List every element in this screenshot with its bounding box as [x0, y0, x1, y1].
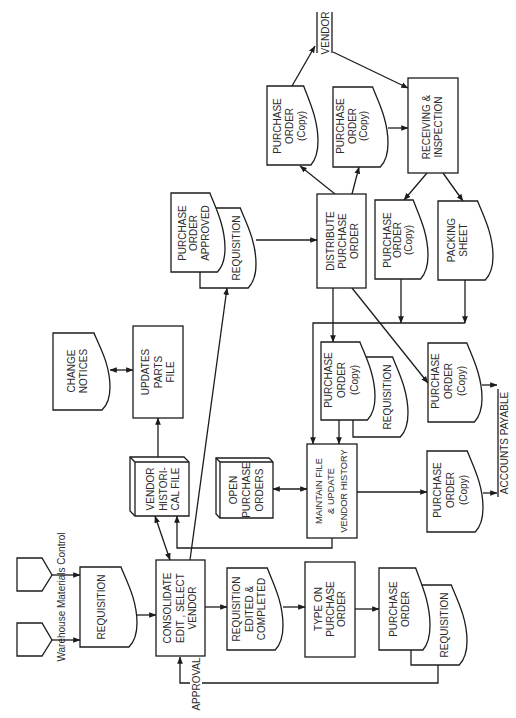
accounts-payable-label: ACCOUNTS PAYABLE	[499, 392, 510, 495]
node-label: RECEIVING &	[421, 94, 432, 159]
node-label: PURCHASE	[272, 98, 283, 154]
node-maintain-file: MAINTAIN FILE & UPDATE VENDOR HISTORY	[307, 444, 357, 538]
node-label: TYPE ON	[313, 587, 324, 631]
node-label: PACKING	[446, 218, 457, 262]
node-consolidate: CONSOLIDATE EDIT , SELECT VENDOR	[156, 560, 205, 656]
node-label: MAINTAIN FILE	[314, 458, 324, 524]
node-purchase-order-with-requisition: REQUISITION PURCHASE ORDER	[379, 568, 467, 665]
node-label: ORDER	[336, 591, 347, 627]
node-label: PURCHASE	[432, 462, 443, 518]
node-label: INSPECTION	[433, 96, 444, 157]
node-requisition: REQUISITION	[80, 567, 137, 647]
node-label: COMPLETED	[256, 578, 267, 640]
node-label: (Copy)	[403, 225, 414, 255]
node-label: PURCHASE	[388, 581, 399, 637]
node-label: CAL FILE	[170, 467, 181, 510]
node-label: UPDATES	[140, 348, 151, 395]
node-label: & UPDATE	[326, 468, 336, 514]
node-label: APPROVED	[200, 205, 211, 261]
edge-distribute-to-po-copy-vendor	[300, 166, 335, 194]
node-po-copy-with-requisition: REQUISITION PURCHASE ORDER (Copy)	[321, 342, 408, 437]
node-label: ORDER	[400, 591, 411, 627]
node-packing-sheet: PACKING SHEET	[438, 201, 493, 280]
node-label: ORDER	[188, 215, 199, 251]
node-label: HISTORI-	[158, 467, 169, 511]
node-type-purchase-order: TYPE ON PURCHASE ORDER	[305, 562, 355, 657]
node-label: FILE	[165, 361, 176, 382]
document-shape	[80, 567, 137, 647]
node-label: (Copy)	[458, 475, 469, 505]
node-label: ORDER	[445, 472, 456, 508]
node-requisition-edited: REQUISITION EDITED & COMPLETED	[227, 568, 283, 650]
offpage-connector-icon	[17, 623, 52, 656]
node-label: CHANGE	[66, 349, 77, 392]
node-po-copy-to-ap-lower: PURCHASE ORDER (Copy)	[427, 451, 483, 532]
node-label: ORDERS	[254, 468, 265, 511]
node-label: PURCHASE	[325, 581, 336, 637]
node-vendor-historical-file: VENDOR HISTORI- CAL FILE	[130, 457, 189, 516]
node-po-copy-to-ap-upper: PURCHASE ORDER (Copy)	[428, 343, 482, 422]
edge-po-copy-to-vendor	[292, 46, 315, 86]
vendor-label: VENDOR	[320, 12, 331, 55]
edge-approval-loop-a	[202, 665, 438, 683]
node-change-notices: CHANGE NOTICES	[53, 333, 110, 410]
edge-approval-loop-b	[180, 657, 190, 683]
node-label: EDIT , SELECT	[175, 573, 186, 643]
node-label: EDITED &	[244, 586, 255, 632]
node-label: REQUISITION	[96, 574, 107, 639]
approval-label: APPROVAL	[191, 657, 202, 711]
external-accounts-payable: ACCOUNTS PAYABLE	[498, 389, 510, 497]
external-vendor: VENDOR	[317, 12, 332, 55]
node-label: (Copy)	[456, 366, 467, 396]
node-open-purchase-orders: OPEN PURCHASE ORDERS	[216, 458, 273, 518]
node-label: ORDER	[349, 223, 360, 259]
offpage-connector-icon	[17, 558, 52, 591]
node-label: (Copy)	[349, 365, 360, 395]
node-po-copy-from-receiving: PURCHASE ORDER (Copy)	[375, 200, 428, 279]
flowchart-canvas: Warehouse Materials Control REQUISITION …	[0, 0, 516, 718]
edge-vendor-to-receiving	[333, 52, 408, 88]
node-po-copy-to-receiving: PURCHASE ORDER (Copy)	[333, 87, 388, 167]
node-label: REQUISITION	[382, 364, 393, 429]
node-label: PURCHASE	[323, 352, 334, 408]
edge-consolidate-to-po-approved	[190, 288, 227, 560]
node-distribute-purchase-order: DISTRIBUTE PURCHASE ORDER	[317, 194, 366, 288]
node-label: PURCHASE	[382, 212, 393, 268]
node-label: PARTS	[153, 355, 164, 388]
edge-distribute-to-po-copy-receiving	[352, 167, 359, 194]
node-label: ORDER	[336, 362, 347, 398]
node-label: VENDOR	[145, 468, 156, 511]
node-label: ORDER	[443, 363, 454, 399]
edge-receiving-to-po-copy	[404, 173, 427, 200]
node-label: PURCHASE	[335, 98, 346, 154]
node-label: REQUISITION	[231, 215, 242, 280]
edge-receiving-to-packing-sheet	[443, 173, 463, 201]
node-label: ORDER	[392, 222, 403, 258]
node-label: (Copy)	[358, 111, 369, 141]
node-label: DISTRIBUTE	[325, 211, 336, 271]
node-label: ORDER	[284, 108, 295, 144]
node-label: PURCHASE	[337, 213, 348, 269]
node-label: OPEN	[228, 476, 239, 504]
node-receiving-inspection: RECEIVING & INSPECTION	[408, 78, 458, 173]
node-label: NOTICES	[78, 348, 89, 393]
source-label: Warehouse Materials Control	[56, 532, 67, 661]
node-label: REQUISITION	[231, 576, 242, 641]
source-connectors: Warehouse Materials Control	[17, 532, 67, 661]
node-label: PURCHASE	[430, 353, 441, 409]
node-po-approved-with-requisition: REQUISITION PURCHASE ORDER APPROVED	[171, 193, 256, 288]
edge-consolidate-vendor-history	[155, 516, 170, 560]
node-label: VENDOR HISTORY	[339, 449, 349, 532]
node-label: SHEET	[458, 223, 469, 256]
node-label: CONSOLIDATE	[162, 572, 173, 643]
node-po-copy-to-vendor: PURCHASE ORDER (Copy)	[267, 86, 318, 165]
node-updates-parts-file: UPDATES PARTS FILE	[133, 326, 183, 418]
node-label: PURCHASE	[177, 205, 188, 261]
node-label: REQUISITION	[439, 592, 450, 657]
flowchart-svg: Warehouse Materials Control REQUISITION …	[0, 0, 516, 718]
node-label: (Copy)	[296, 111, 307, 141]
node-label: VENDOR	[187, 587, 198, 630]
node-label: ORDER	[347, 108, 358, 144]
node-label: PURCHASE	[241, 462, 252, 518]
